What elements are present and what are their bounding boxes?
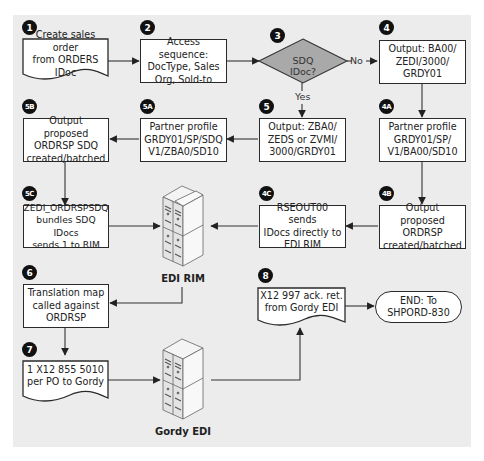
node-text: Output proposed ORDRSP created/batched [382,202,463,252]
node-partner-profile-5a: Partner profile GRDY01/SP/SDQ V1/ZBA0/SD… [140,118,227,162]
server-rim-graphic [163,186,203,266]
node-text: Output: BA00/ ZEDI/3000/ GRDY01 [388,43,456,81]
node-partner-profile-4a: Partner profile GRDY01/SP/ V1/BA00/SD10 [379,118,466,162]
server-gordy-graphic [163,339,203,419]
node-text: Output: ZBA0/ ZEDS or ZVMI/ 3000/GRDY01 [268,121,338,159]
step-badge-2: 2 [140,20,155,35]
step-badge-5c: 5C [22,186,37,201]
node-text: Translation map called against ORDRSP [28,287,105,325]
step-badge-5a: 5A [140,99,155,114]
step-badge-3: 3 [270,28,285,43]
node-text: ZEDI_ORDRSPSDQ bundles SDQ IDocs sends 1… [23,202,108,252]
server-label-gordy-edi: Gordy EDI [150,426,216,437]
node-text: Output proposed ORDRSP SDQ created/batch… [26,115,106,165]
step-badge-4b: 4B [379,186,394,201]
step-badge-4a: 4A [379,99,394,114]
terminal-end-shpord: END: To SHPORD-830 [375,291,462,323]
step-badge-6: 6 [22,265,37,280]
node-output-proposed-sdq: Output proposed ORDRSP SDQ created/batch… [23,118,109,162]
step-badge-8: 8 [258,268,273,283]
node-create-sales-order: Create sales order from ORDERS IDoc [23,39,108,69]
step-badge-4: 4 [379,20,394,35]
step-badge-5b: 5B [22,99,37,114]
step-badge-5: 5 [259,99,274,114]
server-label-edi-rim: EDI RIM [150,273,216,284]
node-text: Create sales order from ORDERS IDoc [23,39,108,69]
node-output-proposed-ordrsp: Output proposed ORDRSP created/batched [379,205,466,249]
node-output-ba00: Output: BA00/ ZEDI/3000/ GRDY01 [379,40,466,84]
decision-sdq-idoc: SDQ IDoc? [280,55,326,77]
node-x12-997: X12 997 ack. ret. from Gordy EDI [258,288,345,316]
node-access-sequence: Access sequence: DocType, Sales Org, Sol… [140,39,227,83]
node-text: RSEOUT00 sends IDocs directly to EDI RIM [262,202,343,252]
node-output-zba0: Output: ZBA0/ ZEDS or ZVMI/ 3000/GRDY01 [259,118,346,162]
node-text: Partner profile GRDY01/SP/SDQ V1/ZBA0/SD… [144,121,222,159]
node-text: Partner profile GRDY01/SP/ V1/BA00/SD10 [387,121,457,159]
node-text: 1 X12 855 5010 per PO to Gordy [23,361,108,391]
node-translation-map: Translation map called against ORDRSP [23,284,109,328]
edge-label-yes: Yes [295,91,310,102]
figure-caption-cutoff [14,452,314,461]
step-badge-4c: 4C [259,186,274,201]
node-text: Access sequence: DocType, Sales Org, Sol… [143,36,224,86]
node-zedi-ordrspsdq: ZEDI_ORDRSPSDQ bundles SDQ IDocs sends 1… [23,205,109,248]
node-rseout00: RSEOUT00 sends IDocs directly to EDI RIM [259,205,346,248]
edge-label-no: No [350,55,363,66]
node-x12-855: 1 X12 855 5010 per PO to Gordy [23,361,108,391]
node-text: X12 997 ack. ret. from Gordy EDI [258,288,345,316]
step-badge-7: 7 [22,342,37,357]
